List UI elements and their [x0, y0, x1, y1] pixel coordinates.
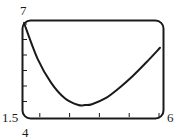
- plot-area: [0, 0, 181, 140]
- y-axis-ticks: [23, 24, 27, 102]
- function-curve: [24, 23, 160, 106]
- x-axis-ticks: [40, 113, 159, 117]
